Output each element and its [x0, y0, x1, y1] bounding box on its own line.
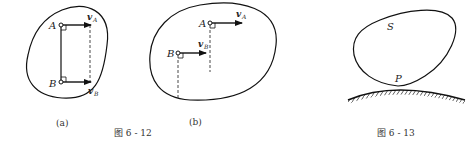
label-a: A: [198, 18, 206, 29]
panel-b-label: (b): [189, 117, 202, 127]
label-va-sub: A: [92, 16, 98, 23]
label-p: P: [394, 73, 402, 84]
point-a-marker: [208, 21, 212, 25]
figure-canvas: A B v A v B (a) A B v A v B (b) 图 6 - 12…: [0, 0, 469, 145]
label-va-sub: A: [241, 13, 247, 20]
panel-b: A B v A v B (b): [150, 3, 276, 127]
figure-613-caption: 图 6 - 13: [377, 128, 415, 138]
label-vb-sub: B: [93, 90, 99, 97]
label-b: B: [48, 78, 56, 89]
figure-613: S P 图 6 - 13: [348, 10, 465, 138]
point-b-marker: [59, 80, 63, 84]
ground-hatch: [348, 90, 465, 104]
label-s: S: [387, 21, 394, 32]
label-a: A: [48, 20, 56, 31]
point-a-marker: [59, 23, 63, 27]
label-vb-sub: B: [203, 43, 209, 50]
figure-612-caption: 图 6 - 12: [114, 128, 152, 138]
label-b: B: [166, 48, 174, 59]
panel-a: A B v A v B (a): [27, 6, 108, 128]
point-b-marker: [176, 51, 180, 55]
panel-a-label: (a): [56, 118, 68, 128]
rigid-body-s: [353, 10, 455, 86]
